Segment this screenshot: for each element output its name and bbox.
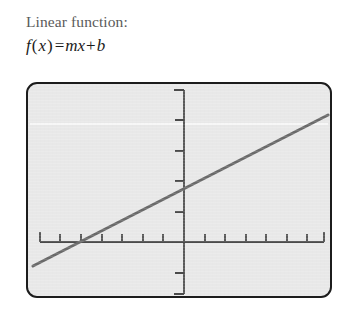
caption-formula: f(x)=mx+b xyxy=(26,34,336,58)
plot-frame xyxy=(26,82,332,298)
figure-caption: Linear function: f(x)=mx+b xyxy=(26,12,336,58)
formula-m: m xyxy=(65,36,77,55)
linear-function-figure: Linear function: f(x)=mx+b xyxy=(0,0,351,322)
formula-equals: = xyxy=(54,36,66,55)
formula-b: b xyxy=(97,36,106,55)
caption-label: Linear function: xyxy=(26,12,336,32)
formula-x-arg: x xyxy=(38,36,46,55)
formula-close-paren: ) xyxy=(46,36,54,55)
function-line xyxy=(33,115,328,266)
formula-plus: + xyxy=(85,36,97,55)
formula-x-var: x xyxy=(78,36,86,55)
plot-canvas xyxy=(26,82,332,298)
